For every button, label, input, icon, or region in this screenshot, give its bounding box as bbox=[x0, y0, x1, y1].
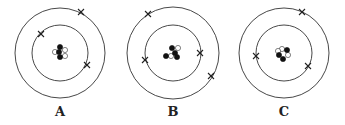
outer-shell bbox=[239, 8, 329, 98]
proton-icon bbox=[174, 54, 179, 59]
electron-icon bbox=[145, 11, 151, 17]
electron-icon bbox=[197, 50, 203, 56]
atom-diagram: A B C bbox=[0, 0, 345, 125]
atom-c bbox=[239, 8, 329, 98]
proton-icon bbox=[169, 45, 174, 50]
neutron-icon bbox=[62, 47, 67, 52]
atom-label-a: A bbox=[54, 104, 66, 119]
proton-icon bbox=[57, 44, 62, 49]
neutron-icon bbox=[62, 53, 67, 58]
atom-a bbox=[15, 8, 105, 98]
neutron-icon bbox=[175, 45, 180, 50]
proton-icon bbox=[57, 54, 62, 59]
atom-label-b: B bbox=[168, 104, 179, 119]
inner-shell bbox=[256, 25, 312, 81]
proton-icon bbox=[284, 47, 289, 52]
atom-label-c: C bbox=[279, 104, 289, 119]
proton-icon bbox=[280, 56, 285, 61]
proton-icon bbox=[276, 52, 281, 57]
atom-b bbox=[127, 7, 219, 99]
proton-icon bbox=[163, 53, 168, 58]
electron-icon bbox=[299, 9, 305, 15]
proton-icon bbox=[56, 49, 61, 54]
neutron-icon bbox=[285, 52, 290, 57]
